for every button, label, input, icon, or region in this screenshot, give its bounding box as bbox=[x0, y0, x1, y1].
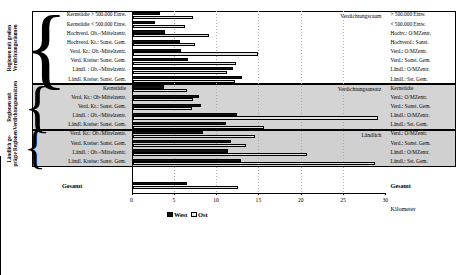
axis-tick-label-25: 25 bbox=[333, 197, 353, 203]
label-column-divider-1 bbox=[0, 156, 1, 275]
row-label-left-14: Verd. Kreise: Sonst. Gem. bbox=[33, 141, 126, 147]
axis-tick-10 bbox=[216, 193, 217, 196]
legend-swatch-ost bbox=[191, 212, 197, 217]
axis-tick-label-10: 10 bbox=[206, 197, 226, 203]
axis-tick-label-20: 20 bbox=[291, 197, 311, 203]
row-label-right-12: Ländl.: Sst. Gem. bbox=[391, 122, 455, 128]
axis-tick-label-0: 0 bbox=[122, 197, 142, 203]
row-label-right-10: Verd.: Sonst. Gem. bbox=[391, 104, 455, 110]
group-brace-3: { bbox=[24, 130, 46, 167]
row-label-right-9: Verd.: O/MZentr. bbox=[391, 95, 455, 101]
row-total-ost-bar bbox=[133, 186, 239, 189]
axis-tick-label-5: 5 bbox=[164, 197, 184, 203]
row-label-right-16: Ländl.: Sst. Gem. bbox=[391, 159, 455, 165]
row-4-ost-bar bbox=[133, 52, 258, 55]
axis-tick-20 bbox=[301, 193, 302, 196]
row-label-right-7: Ländl.: Sst. Gem. bbox=[391, 77, 455, 83]
axis-tick-label-15: 15 bbox=[248, 197, 268, 203]
legend-item-2: Ost bbox=[191, 211, 208, 218]
axis-tick-15 bbox=[258, 193, 259, 196]
axis-tick-30 bbox=[385, 193, 386, 196]
row-label-right-14: Verd.: Sonst. Gem. bbox=[391, 141, 455, 147]
row-3-ost-bar bbox=[133, 43, 196, 46]
row-10-ost-bar bbox=[133, 107, 192, 110]
row-label-right-15: Ländl.: O/MZentr. bbox=[391, 150, 455, 156]
group-brace-1: { bbox=[24, 11, 68, 84]
chart-root: Kernstädte > 500.000 Einw.> 500.000 Einw… bbox=[0, 0, 457, 275]
row-6-ost-bar bbox=[133, 71, 228, 74]
group-caption-1: Regionen mit großen Verdichtungsräumen bbox=[6, 11, 18, 84]
row-16-ost-bar bbox=[133, 162, 376, 165]
axis-tick-25 bbox=[343, 193, 344, 196]
row-label-left-15: Ländl. : Ob.-/Mittelzentr. bbox=[33, 150, 126, 156]
row-label-right-8: Kernstädte bbox=[391, 86, 455, 92]
row-12-ost-bar bbox=[133, 126, 265, 129]
axis-tick-0 bbox=[132, 193, 133, 196]
row-1-ost-bar bbox=[133, 25, 185, 28]
row-label-right-6: Ländl.: O/MZentr. bbox=[391, 67, 455, 73]
block-title-3: Ländlich bbox=[142, 132, 382, 138]
row-label-right-2: Hochv.: O/MZentr. bbox=[391, 31, 455, 37]
block-title-2: Verdichtungsansatz bbox=[142, 86, 382, 92]
row-2-ost-bar bbox=[133, 34, 209, 37]
block-title-1: Verdichtungsraum bbox=[142, 13, 382, 19]
row-11-ost-bar bbox=[133, 116, 378, 119]
row-label-right-1: < 500.000 Einw. bbox=[391, 22, 455, 28]
row-7-ost-bar bbox=[133, 80, 235, 83]
row-9-ost-bar bbox=[133, 98, 193, 101]
row-15-ost-bar bbox=[133, 153, 307, 156]
legend-swatch-west bbox=[167, 212, 173, 217]
row-label-right-5: Verd.: Sonst. Gem. bbox=[391, 58, 455, 64]
legend-item-1: West bbox=[167, 211, 188, 218]
row-label-right-11: Ländl.: O/MZentr. bbox=[391, 113, 455, 119]
group-caption-3: Ländlich ge- prägte Regionen bbox=[6, 130, 18, 167]
plot-area bbox=[132, 11, 386, 193]
total-label-left: Gesamt bbox=[62, 182, 82, 189]
axis-tick-5 bbox=[174, 193, 175, 196]
row-label-right-0: > 500.000 Einw. bbox=[391, 12, 455, 18]
row-label-right-13: Verd.: O/MZentr. bbox=[391, 131, 455, 137]
row-label-right-3: Hochverd.: Sonst. bbox=[391, 40, 455, 46]
row-5-ost-bar bbox=[133, 62, 236, 65]
legend-label-ost: Ost bbox=[198, 211, 208, 218]
total-label-right: Gesamt bbox=[391, 182, 411, 189]
row-label-right-4: Verd.: O/MZentr. bbox=[391, 49, 455, 55]
legend-label-west: West bbox=[174, 211, 188, 218]
row-label-left-16: Ländl. Kreise: Sonst. Gem. bbox=[33, 159, 126, 165]
legend: WestOst bbox=[167, 211, 208, 218]
axis-tick-label-30: 30 bbox=[375, 197, 395, 203]
axis-unit-label: Kilometer bbox=[391, 205, 416, 212]
group-caption-2: Regionen mit Verdichtungsansätzen bbox=[6, 84, 18, 130]
row-14-ost-bar bbox=[133, 144, 246, 147]
